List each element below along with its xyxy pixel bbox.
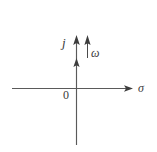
origin-label: 0 [63,89,69,101]
s-plane-diagram: j ω σ 0 [0,0,157,152]
real-axis-label: σ [138,82,144,94]
imaginary-axis-label: j [62,36,66,49]
axes-drawing [0,0,157,152]
omega-vector-label: ω [91,47,99,59]
